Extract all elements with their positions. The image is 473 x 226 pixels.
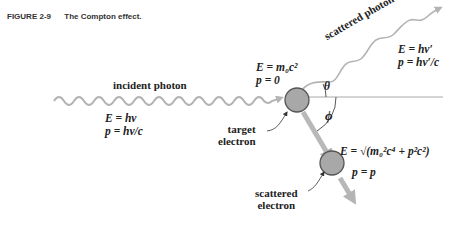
target-electron-equations: E = m₀c² p = 0 (256, 61, 297, 87)
incident-momentum-eq: p = hν/c (105, 125, 143, 138)
scattered-photon-energy-eq: E = hν′ (398, 43, 439, 56)
target-electron-label: target electron (218, 123, 256, 147)
scattered-electron-momentum-eq: p = p (352, 166, 376, 179)
scattered-electron-energy-eq: E = √(m₀²c⁴ + p²c²) (340, 145, 430, 158)
incident-energy-eq: E = hν (105, 112, 143, 125)
incident-photon-label: incident photon (113, 79, 187, 91)
scattered-electron-label: scattered electron (255, 187, 298, 211)
target-energy-eq: E = m₀c² (256, 61, 297, 74)
scattered-photon-momentum-eq: p = hν′/c (398, 56, 439, 69)
compton-diagram (0, 0, 473, 226)
target-electron-leader (267, 112, 287, 131)
target-electron (285, 88, 309, 112)
phi-label: ϕ (325, 109, 333, 122)
target-momentum-eq: p = 0 (256, 74, 297, 87)
theta-label: θ (324, 80, 330, 93)
scattered-electron-arrow (340, 178, 352, 198)
incident-photon-wave (54, 97, 281, 105)
scattered-photon-equations: E = hν′ p = hν′/c (398, 43, 439, 69)
scattered-electron-leader (308, 172, 324, 191)
incident-photon-equations: E = hν p = hν/c (105, 112, 143, 138)
